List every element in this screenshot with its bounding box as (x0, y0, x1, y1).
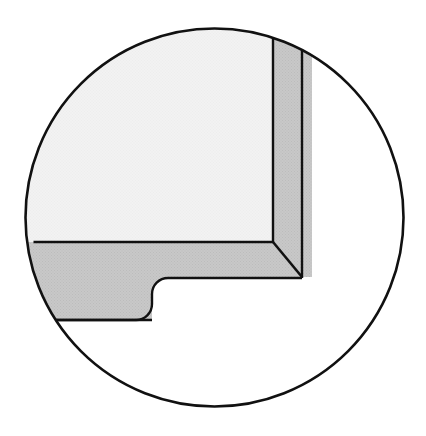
detail-figure-root (0, 0, 426, 436)
detail-drawing (0, 0, 426, 436)
gray-band-right-leg (273, 19, 312, 278)
